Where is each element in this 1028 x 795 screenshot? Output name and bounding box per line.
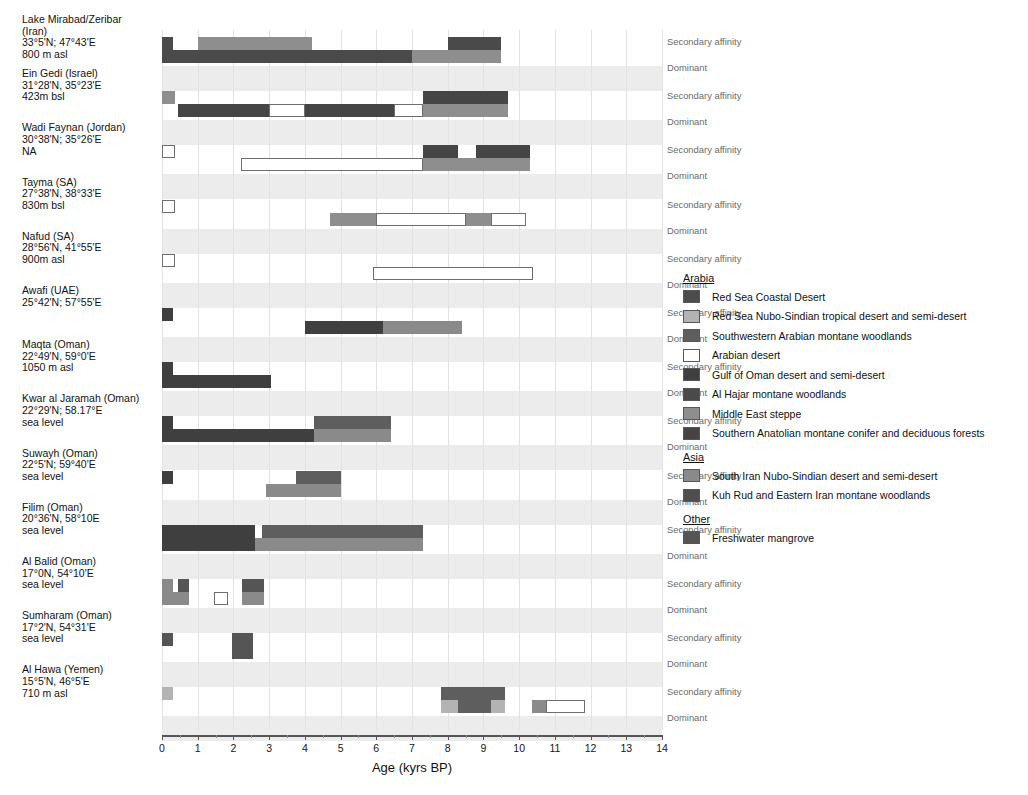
- track-secondary: Secondary affinity: [162, 308, 662, 321]
- segment: [162, 429, 314, 442]
- segment: [423, 158, 530, 171]
- segment: [412, 50, 501, 63]
- axis-tick: [591, 735, 592, 740]
- axis-tick: [448, 735, 449, 740]
- axis-tick-minor: [358, 735, 359, 738]
- axis-tick-label: 7: [409, 742, 415, 754]
- legend-swatch: [683, 329, 700, 342]
- segment: [162, 200, 175, 213]
- site-row: Secondary affinityDominant: [162, 362, 662, 388]
- axis-tick-minor: [251, 735, 252, 738]
- axis-tick-label: 4: [302, 742, 308, 754]
- track-secondary: Secondary affinity: [162, 254, 662, 267]
- axis-tick-label: 1: [195, 742, 201, 754]
- axis-tick-label: 10: [513, 742, 525, 754]
- axis-tick-minor: [394, 735, 395, 738]
- site-row: Secondary affinityDominant: [162, 525, 662, 551]
- site-label: Nafud (SA) 28°56'N, 41°55'E 900m asl: [22, 231, 162, 266]
- axis-tick-label: 6: [373, 742, 379, 754]
- axis-tick-label: 12: [585, 742, 597, 754]
- legend-swatch: [683, 368, 700, 381]
- track-dominant: Dominant: [162, 321, 662, 334]
- segment: [162, 525, 255, 538]
- track-dominant: Dominant: [162, 375, 662, 388]
- site-label: Al Hawa (Yemen) 15°5'N, 46°5'E 710 m asl: [22, 664, 162, 699]
- segment: [178, 579, 189, 592]
- track-secondary: Secondary affinity: [162, 525, 662, 538]
- axis-tick-minor: [430, 735, 431, 738]
- legend-label: Arabian desert: [712, 349, 780, 361]
- segment: [162, 50, 412, 63]
- segment: [305, 104, 394, 117]
- segment: [162, 687, 173, 700]
- axis-tick: [376, 735, 377, 740]
- segment: [330, 213, 376, 226]
- legend-item[interactable]: Middle East steppe: [683, 404, 1023, 424]
- site-label: Suwayh (Oman) 22°5'N; 59°40'E sea level: [22, 448, 162, 483]
- track-caption: Dominant: [667, 62, 707, 73]
- legend-label: Kuh Rud and Eastern Iran montane woodlan…: [712, 489, 930, 501]
- segment: [255, 538, 423, 551]
- site-row: Secondary affinityDominant: [162, 633, 662, 659]
- axis-tick-label: 14: [656, 742, 668, 754]
- segment: [242, 579, 263, 592]
- legend-item[interactable]: Kuh Rud and Eastern Iran montane woodlan…: [683, 486, 1023, 506]
- segment: [162, 633, 173, 646]
- segment: [448, 37, 502, 50]
- track-caption: Secondary affinity: [667, 253, 741, 264]
- site-label: Al Balid (Oman) 17°0N, 54°10'E sea level: [22, 556, 162, 591]
- legend-item[interactable]: Gulf of Oman desert and semi-desert: [683, 365, 1023, 385]
- legend-item[interactable]: Al Hajar montane woodlands: [683, 385, 1023, 405]
- track-caption: Secondary affinity: [667, 686, 741, 697]
- legend-item[interactable]: Southwestern Arabian montane woodlands: [683, 326, 1023, 346]
- segment: [262, 525, 423, 538]
- segment: [423, 91, 509, 104]
- track-secondary: Secondary affinity: [162, 362, 662, 375]
- legend-label: Middle East steppe: [712, 408, 801, 420]
- legend-label: Red Sea Nubo-Sindian tropical desert and…: [712, 310, 966, 322]
- legend-item[interactable]: Red Sea Coastal Desert: [683, 287, 1023, 307]
- legend-item[interactable]: South Iran Nubo-Sindian desert and semi-…: [683, 466, 1023, 486]
- segment: [314, 416, 391, 429]
- x-axis-title: Age (kyrs BP): [162, 760, 662, 775]
- track-caption: Dominant: [667, 604, 707, 615]
- plot-area: Secondary affinityDominantSecondary affi…: [162, 30, 662, 730]
- legend-swatch: [683, 388, 700, 401]
- track-dominant: Dominant: [162, 104, 662, 117]
- legend-item[interactable]: Southern Anatolian montane conifer and d…: [683, 424, 1023, 444]
- legend-item[interactable]: Freshwater mangrove: [683, 528, 1023, 548]
- axis-tick-label: 8: [445, 742, 451, 754]
- track-caption: Dominant: [667, 116, 707, 127]
- segment: [162, 538, 255, 551]
- segment: [162, 471, 173, 484]
- segment: [178, 104, 269, 117]
- track-caption: Secondary affinity: [667, 36, 741, 47]
- axis-tick: [233, 735, 234, 740]
- track-dominant: Dominant: [162, 50, 662, 63]
- segment: [162, 91, 175, 104]
- legend-item[interactable]: Arabian desert: [683, 346, 1023, 366]
- track-dominant: Dominant: [162, 213, 662, 226]
- segment: [198, 37, 312, 50]
- segment: [376, 213, 465, 226]
- axis-tick-label: 11: [549, 742, 560, 754]
- axis-tick: [341, 735, 342, 740]
- legend: ArabiaRed Sea Coastal DesertRed Sea Nubo…: [683, 272, 1023, 548]
- segment: [491, 700, 505, 713]
- axis-tick: [305, 735, 306, 740]
- legend-label: Southern Anatolian montane conifer and d…: [712, 427, 985, 439]
- site-label: Awafi (UAE) 25°42'N; 57°55'E: [22, 285, 162, 308]
- legend-item[interactable]: Red Sea Nubo-Sindian tropical desert and…: [683, 307, 1023, 327]
- site-label: Kwar al Jaramah (Oman) 22°29'N; 58.17°E …: [22, 393, 162, 428]
- segment: [162, 362, 173, 375]
- axis-tick-minor: [323, 735, 324, 738]
- axis-tick-minor: [180, 735, 181, 738]
- track-secondary: Secondary affinity: [162, 91, 662, 104]
- axis-tick-label: 5: [338, 742, 344, 754]
- track-dominant: Dominant: [162, 592, 662, 605]
- axis-tick: [412, 735, 413, 740]
- axis-tick-minor: [608, 735, 609, 738]
- site-row: Secondary affinityDominant: [162, 416, 662, 442]
- track-caption: Secondary affinity: [667, 578, 741, 589]
- track-caption: Secondary affinity: [667, 199, 741, 210]
